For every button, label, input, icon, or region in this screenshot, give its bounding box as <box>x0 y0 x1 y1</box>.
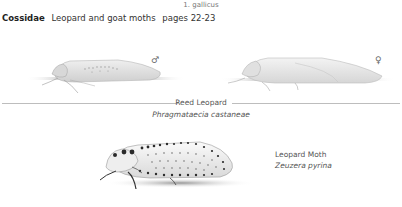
reed-leopard-female-illustration <box>200 30 402 100</box>
page-reference: pages 22-23 <box>162 13 215 23</box>
leopard-moth-common-name: Leopard Moth <box>275 149 332 160</box>
section-heading: Cossidae Leopard and goat moths pages 22… <box>2 13 215 23</box>
male-symbol: ♂ <box>151 55 159 65</box>
family-name: Cossidae <box>2 13 45 23</box>
female-symbol: ♀ <box>375 55 382 65</box>
reed-leopard-latin-name: Phragmataecia castaneae <box>0 110 402 119</box>
top-caption: 1. gallicus <box>0 1 402 9</box>
family-description: Leopard and goat moths <box>51 13 155 23</box>
leopard-moth-label: Leopard Moth Zeuzera pyrina <box>275 149 332 171</box>
reed-leopard-male-illustration <box>0 30 200 100</box>
leopard-moth-latin-name: Zeuzera pyrina <box>275 160 332 171</box>
leopard-moth-illustration <box>60 125 260 205</box>
reed-leopard-common-name: Reed Leopard <box>0 98 402 107</box>
